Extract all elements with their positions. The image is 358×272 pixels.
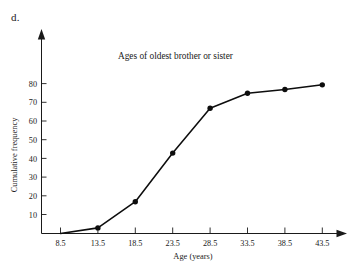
- x-axis-title: Age (years): [173, 252, 213, 261]
- y-tick-label-80: 80: [29, 80, 37, 89]
- y-tick-label-40: 40: [29, 155, 37, 164]
- x-tick-label-18-5: 18.5: [128, 239, 142, 248]
- data-point-28.5: [207, 106, 212, 111]
- cumulative-frequency-chart: Ages of oldest brother or sister 10 20 3…: [0, 0, 358, 272]
- data-point-43.5: [320, 82, 325, 87]
- x-tick-label-43-5: 43.5: [315, 239, 329, 248]
- x-tick-label-8-5: 8.5: [55, 239, 65, 248]
- data-point-18.5: [133, 199, 138, 204]
- data-point-13.5: [95, 225, 100, 230]
- chart-background: [0, 0, 358, 272]
- x-tick-label-28-5: 28.5: [203, 239, 217, 248]
- x-tick-label-23-5: 23.5: [166, 239, 180, 248]
- x-tick-label-13-5: 13.5: [91, 239, 105, 248]
- x-tick-label-38-5: 38.5: [278, 239, 292, 248]
- data-point-23.5: [170, 150, 175, 155]
- y-tick-label-70: 70: [29, 98, 37, 107]
- y-tick-label-60: 60: [29, 117, 37, 126]
- y-tick-label-30: 30: [29, 173, 37, 182]
- data-point-33.5: [245, 91, 250, 96]
- figure-container: d. Ages of oldest brother or sister 10 2…: [0, 0, 358, 272]
- y-tick-label-10: 10: [29, 211, 37, 220]
- x-tick-label-33-5: 33.5: [240, 239, 254, 248]
- part-label: d.: [11, 11, 20, 23]
- y-tick-label-20: 20: [29, 192, 37, 201]
- data-point-38.5: [282, 87, 287, 92]
- chart-title: Ages of oldest brother or sister: [118, 51, 234, 61]
- y-axis-title: Cumulative frequency: [10, 117, 19, 192]
- y-tick-label-50: 50: [29, 136, 37, 145]
